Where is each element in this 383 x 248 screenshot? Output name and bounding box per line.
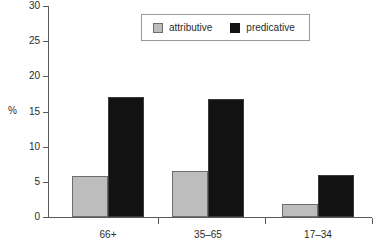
legend-entry-predicative: predicative <box>230 23 294 33</box>
y-axis-tick-label: 20 <box>14 71 40 81</box>
y-axis-tick <box>43 182 49 183</box>
bar-attributive-35-65 <box>172 171 208 217</box>
bar-predicative-17-34 <box>318 175 354 217</box>
y-axis-tick <box>43 112 49 113</box>
x-axis-tick <box>372 218 373 224</box>
legend-swatch-attributive-icon <box>153 23 163 33</box>
y-axis-tick <box>43 217 49 218</box>
y-axis-tick-label: 5 <box>14 177 40 187</box>
legend-label-attributive: attributive <box>169 23 212 33</box>
bar-attributive-66- <box>72 176 108 217</box>
y-axis-tick-label-wrap: 20 <box>10 71 40 81</box>
x-axis-line <box>48 217 372 218</box>
y-axis-tick-label: 25 <box>14 36 40 46</box>
y-axis-tick-label: 0 <box>14 212 40 222</box>
y-axis-tick <box>43 76 49 77</box>
x-axis-label: 17–34 <box>304 229 332 240</box>
legend-swatch-predicative-icon <box>230 23 240 33</box>
y-axis-tick-label: 10 <box>14 142 40 152</box>
chart-legend: attributive predicative <box>141 14 310 41</box>
x-axis-tick <box>265 218 266 224</box>
y-axis-tick-label-wrap: 5 <box>10 177 40 187</box>
y-axis-tick <box>43 41 49 42</box>
bar-predicative-35-65 <box>208 99 244 217</box>
y-axis-tick-label-wrap: 30 <box>10 1 40 11</box>
legend-label-predicative: predicative <box>246 23 294 33</box>
y-axis-tick-label-wrap: 15 <box>10 107 40 117</box>
y-axis-tick-label-wrap: 25 <box>10 36 40 46</box>
x-axis-tick <box>158 218 159 224</box>
legend-entry-attributive: attributive <box>153 23 212 33</box>
y-axis-tick <box>43 6 49 7</box>
bar-chart: % 051015202530 66+35–6517–34 attributive… <box>0 0 383 248</box>
y-axis-tick-label: 30 <box>14 1 40 11</box>
bar-attributive-17-34 <box>282 204 318 217</box>
y-axis-tick-label: 15 <box>14 107 40 117</box>
y-axis-tick-label-wrap: 0 <box>10 212 40 222</box>
y-axis-tick <box>43 147 49 148</box>
bar-predicative-66- <box>108 97 144 217</box>
x-axis-label: 35–65 <box>194 229 222 240</box>
x-axis-label: 66+ <box>100 229 117 240</box>
y-axis-tick-label-wrap: 10 <box>10 142 40 152</box>
